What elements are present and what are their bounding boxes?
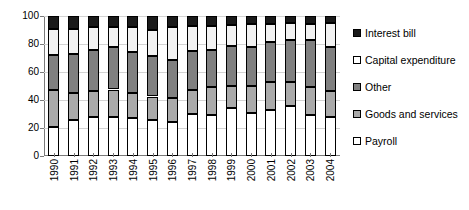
- x-axis-tick-label: 1998: [208, 159, 218, 181]
- bar-stack-1995[interactable]: [147, 16, 158, 156]
- bar-segment-interest-bill: [68, 16, 79, 29]
- bar-stack-1998[interactable]: [206, 16, 217, 156]
- legend-item[interactable]: Interest bill: [353, 22, 467, 44]
- bar-segment-goods-and-services: [206, 87, 217, 115]
- bar-segment-interest-bill: [265, 16, 276, 24]
- x-axis-tick: [93, 153, 94, 157]
- bar-stack-1997[interactable]: [187, 16, 198, 156]
- bar-stack-1999[interactable]: [226, 16, 237, 156]
- legend-item-label: Goods and services: [365, 109, 458, 120]
- bar-slot: [143, 16, 163, 156]
- bar-segment-other: [325, 47, 336, 91]
- x-axis-tick-label: 1992: [89, 159, 99, 181]
- bar-segment-goods-and-services: [88, 91, 99, 117]
- stacked-bar-chart: 020406080100 199019911992199319941995199…: [0, 0, 469, 210]
- bar-segment-interest-bill: [226, 16, 237, 25]
- bar-segment-capital-expenditure: [48, 29, 59, 56]
- legend-swatch-white: [353, 137, 361, 145]
- bar-stack-2002[interactable]: [285, 16, 296, 156]
- legend-item-label: Other: [365, 82, 391, 93]
- bar-segment-interest-bill: [325, 16, 336, 23]
- bar-segment-payroll: [325, 117, 336, 156]
- bar-segment-capital-expenditure: [206, 26, 217, 51]
- x-axis-tick: [251, 153, 252, 157]
- bar-stack-2001[interactable]: [265, 16, 276, 156]
- bar-stack-1996[interactable]: [167, 16, 178, 156]
- bar-segment-payroll: [187, 114, 198, 156]
- x-axis-tick-label: 2002: [287, 159, 297, 181]
- bar-segment-payroll: [127, 118, 138, 157]
- bar-segment-goods-and-services: [226, 86, 237, 108]
- bar-stack-2004[interactable]: [325, 16, 336, 156]
- legend-item-label: Capital expenditure: [365, 55, 455, 66]
- bar-stack-1993[interactable]: [108, 16, 119, 156]
- bar-segment-interest-bill: [88, 16, 99, 27]
- x-axis-label-slot: 2004: [320, 157, 340, 209]
- legend-item-label: Interest bill: [365, 28, 416, 39]
- bar-stack-1994[interactable]: [127, 16, 138, 156]
- bar-segment-goods-and-services: [265, 82, 276, 110]
- bar-stack-1990[interactable]: [48, 16, 59, 156]
- x-axis-label-slot: 1993: [103, 157, 123, 209]
- x-axis-tick-label: 1991: [70, 159, 80, 181]
- x-axis-tick-label: 1999: [227, 159, 237, 181]
- bar-segment-goods-and-services: [167, 98, 178, 123]
- x-axis-tick-label: 1997: [188, 159, 198, 181]
- x-axis-tick-label: 1996: [168, 159, 178, 181]
- bar-segment-payroll: [246, 113, 257, 156]
- bar-segment-capital-expenditure: [246, 24, 257, 46]
- bar-segment-capital-expenditure: [88, 27, 99, 50]
- bar-segment-capital-expenditure: [167, 27, 178, 61]
- x-axis-label-slot: 1999: [222, 157, 242, 209]
- bar-slot: [182, 16, 202, 156]
- legend-item[interactable]: Goods and services: [353, 103, 467, 125]
- legend-swatch-black: [353, 29, 361, 37]
- x-axis-tick: [153, 153, 154, 157]
- bar-slot: [64, 16, 84, 156]
- bar-segment-capital-expenditure: [108, 27, 119, 47]
- legend-item[interactable]: Other: [353, 76, 467, 98]
- bar-segment-capital-expenditure: [147, 30, 158, 56]
- bar-segment-other: [226, 46, 237, 86]
- x-axis-tick-label: 2001: [267, 159, 277, 181]
- bar-segment-goods-and-services: [325, 91, 336, 117]
- bar-slot: [222, 16, 242, 156]
- legend-swatch-dark-gray: [353, 83, 361, 91]
- x-axis-tick-label: 1990: [50, 159, 60, 181]
- bar-segment-other: [68, 54, 79, 93]
- x-axis-label-slot: 1998: [202, 157, 222, 209]
- bar-segment-goods-and-services: [285, 82, 296, 107]
- bar-segment-payroll: [206, 115, 217, 156]
- bar-segment-capital-expenditure: [265, 24, 276, 42]
- x-axis-tick: [74, 153, 75, 157]
- y-axis-tick-label: 100: [22, 11, 39, 21]
- bar-segment-other: [108, 47, 119, 90]
- bar-segment-interest-bill: [285, 16, 296, 23]
- x-axis-tick: [133, 153, 134, 157]
- x-axis-tick: [192, 153, 193, 157]
- x-axis-tick: [291, 153, 292, 157]
- bar-segment-goods-and-services: [127, 93, 138, 118]
- bar-segment-payroll: [48, 127, 59, 156]
- bar-segment-other: [285, 40, 296, 82]
- x-axis-label-slot: 1996: [162, 157, 182, 209]
- x-axis-label-slot: 1992: [83, 157, 103, 209]
- bar-segment-goods-and-services: [68, 93, 79, 120]
- bar-slot: [241, 16, 261, 156]
- bar-segment-other: [305, 40, 316, 88]
- x-axis-label-slot: 2002: [281, 157, 301, 209]
- legend-item[interactable]: Payroll: [353, 130, 467, 152]
- bar-segment-capital-expenditure: [68, 29, 79, 54]
- bar-stack-2000[interactable]: [246, 16, 257, 156]
- y-axis-tick-label: 60: [28, 67, 39, 77]
- bar-segment-payroll: [167, 122, 178, 156]
- plot-area: 020406080100: [44, 16, 340, 156]
- bar-stack-1992[interactable]: [88, 16, 99, 156]
- bar-segment-payroll: [88, 117, 99, 156]
- bar-segment-interest-bill: [206, 16, 217, 26]
- x-axis-tick: [310, 153, 311, 157]
- bar-segment-payroll: [265, 110, 276, 156]
- bar-stack-2003[interactable]: [305, 16, 316, 156]
- legend-item[interactable]: Capital expenditure: [353, 49, 467, 71]
- bar-stack-1991[interactable]: [68, 16, 79, 156]
